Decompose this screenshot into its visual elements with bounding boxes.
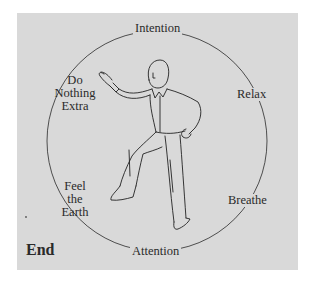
label-attention: Attention	[130, 245, 181, 258]
label-intention: Intention	[133, 22, 182, 35]
label-line: Earth	[52, 206, 98, 219]
label-do-nothing-extra: Do Nothing Extra	[48, 74, 102, 113]
speck-dot	[25, 216, 27, 218]
label-breathe: Breathe	[226, 194, 269, 207]
label-end: End	[24, 242, 56, 258]
label-feel-the-earth: Feel the Earth	[50, 180, 100, 219]
label-relax: Relax	[235, 88, 268, 101]
tai-chi-figure-icon	[99, 60, 201, 229]
label-line: Extra	[50, 100, 100, 113]
